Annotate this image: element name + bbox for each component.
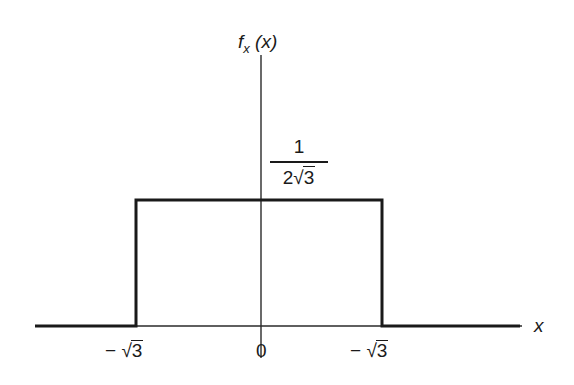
y-axis-label: fx (x) xyxy=(238,32,277,51)
tick-left-sign: − xyxy=(105,340,116,361)
pdf-diagram: fx (x) 1 2√3 − √3 0 − √3 x xyxy=(0,0,574,385)
sqrt-icon: √3 xyxy=(121,340,143,360)
sqrt-icon: √3 xyxy=(293,166,315,189)
y-axis-arg: (x) xyxy=(255,31,277,52)
height-fraction-label: 1 2√3 xyxy=(270,136,328,189)
tick-left-root: 3 xyxy=(131,340,144,360)
y-axis-subscript: x xyxy=(243,41,250,56)
x-tick-zero: 0 xyxy=(256,341,267,360)
pdf-curve xyxy=(35,200,520,326)
denominator-root: 3 xyxy=(303,166,316,189)
x-axis-label: x xyxy=(534,316,544,335)
x-tick-left: − √3 xyxy=(105,340,143,360)
x-tick-right: − √3 xyxy=(350,340,388,360)
tick-right-sign: − xyxy=(350,340,361,361)
fraction-denominator: 2√3 xyxy=(283,163,316,189)
fraction-numerator: 1 xyxy=(294,136,305,161)
denominator-coef: 2 xyxy=(283,167,294,188)
diagram-graphics xyxy=(0,0,574,385)
tick-right-root: 3 xyxy=(376,340,389,360)
sqrt-icon: √3 xyxy=(366,340,388,360)
